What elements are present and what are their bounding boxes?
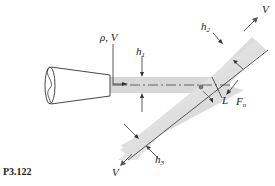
h2-label: h2 — [201, 20, 211, 34]
upper-v-label: V — [262, 3, 270, 15]
L-label: L — [221, 94, 228, 106]
lower-v-label: V — [112, 166, 120, 178]
h1-label: h1 — [136, 45, 145, 59]
plate-edge — [128, 50, 268, 160]
rho-v-label: ρ, V — [99, 31, 119, 43]
hinge-point — [199, 85, 203, 89]
h1-bottom-arrowhead — [140, 93, 144, 98]
nozzle — [45, 67, 110, 104]
jet-on-inclined-plate-diagram: ρ, V h1 h2 V L Fn h3 V P3.122 — [0, 0, 275, 186]
h3-label: h3 — [155, 153, 165, 167]
h3-arrow — [124, 124, 137, 137]
problem-label: P3.122 — [3, 166, 32, 177]
Fn-label: Fn — [235, 95, 247, 109]
h1-top-arrowhead — [140, 72, 144, 77]
